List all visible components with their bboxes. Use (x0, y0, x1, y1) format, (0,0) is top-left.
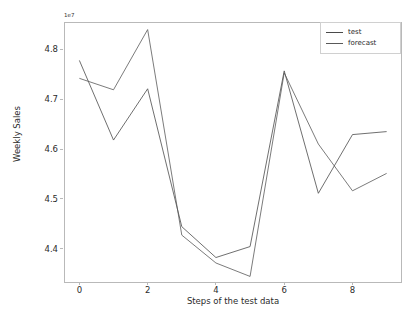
y-tick-mark (60, 149, 63, 150)
y-tick-label: 4.4 (2, 244, 58, 254)
legend-item-test[interactable]: test (326, 27, 395, 38)
series-line-forecast (79, 30, 386, 277)
x-tick-mark (79, 282, 80, 285)
x-tick-label: 0 (77, 285, 82, 295)
legend-label-forecast: forecast (348, 38, 376, 49)
x-tick-mark (147, 282, 148, 285)
x-tick-label: 8 (350, 285, 355, 295)
legend-swatch-test (326, 32, 343, 33)
x-tick-mark (284, 282, 285, 285)
y-tick-mark (60, 99, 63, 100)
y-tick-mark (60, 198, 63, 199)
y-axis-tick-labels: 4.44.54.64.74.8 (0, 22, 58, 283)
legend-item-forecast[interactable]: forecast (326, 38, 395, 49)
legend-label-test: test (348, 27, 361, 38)
x-tick-mark (215, 282, 216, 285)
legend-swatch-forecast (326, 43, 343, 44)
y-tick-label: 4.5 (2, 194, 58, 204)
x-tick-label: 6 (281, 285, 286, 295)
y-axis-label: Weekly Sales (12, 84, 22, 184)
y-tick-label: 4.6 (2, 144, 58, 154)
x-axis-label: Steps of the test data (64, 296, 402, 306)
chart-figure: 1e7 4.44.54.64.74.8 Weekly Sales 02468 S… (0, 0, 417, 317)
y-tick-label: 4.7 (2, 94, 58, 104)
series-line-test (79, 60, 386, 257)
chart-legend: test forecast (320, 22, 401, 54)
plot-lines (64, 22, 402, 283)
y-axis-offset-label: 1e7 (64, 12, 75, 18)
x-tick-label: 4 (213, 285, 218, 295)
x-tick-mark (352, 282, 353, 285)
y-tick-mark (60, 49, 63, 50)
y-tick-mark (60, 248, 63, 249)
plot-area (64, 22, 402, 283)
y-tick-label: 4.8 (2, 44, 58, 54)
x-tick-label: 2 (145, 285, 150, 295)
